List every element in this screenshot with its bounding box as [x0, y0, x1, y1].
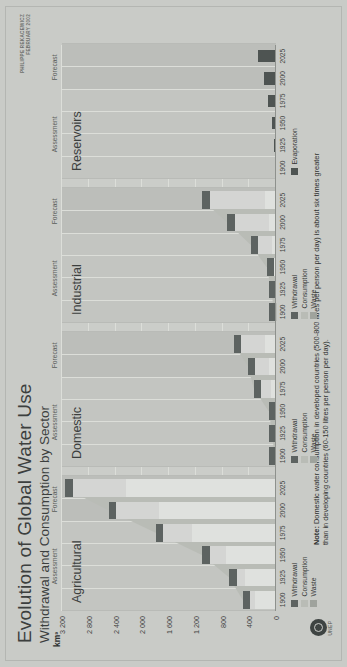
x-gridline — [62, 377, 276, 378]
legend-reservoirs: Evaporation — [290, 128, 300, 175]
unep-logo: UNEP — [310, 613, 333, 643]
y-axis-title: km³ — [52, 632, 62, 647]
x-gridline — [62, 300, 276, 301]
x-tick-label: 1975 — [279, 382, 286, 397]
x-gridline — [62, 255, 276, 256]
credit-text: PHILIPPE REKACEWICZFEBRUARY 2002 — [20, 14, 32, 73]
x-tick-label: 1950 — [279, 404, 286, 419]
sector-label-domestic: Domestic — [70, 407, 84, 459]
sector-label-industrial: Industrial — [70, 264, 84, 315]
x-tick-label: 2000 — [279, 215, 286, 230]
x-gridline — [62, 111, 276, 112]
y-tick-label: 0 — [272, 616, 281, 620]
legend-label: Consumption — [301, 556, 308, 596]
bar-withdrawal-stem — [116, 502, 276, 519]
legend-item: Withdrawal — [290, 556, 299, 607]
poster-rotator: Evolution of Global Water Use Withdrawal… — [0, 0, 347, 667]
x-tick-label: 1900 — [279, 161, 286, 176]
legend-label: Consumption — [301, 412, 308, 452]
bar-withdrawal-stem — [258, 236, 276, 253]
legend-swatch-evaporation — [291, 168, 298, 175]
phase-label-forecast: Forecast — [51, 343, 58, 369]
x-tick-label: 1925 — [279, 282, 286, 297]
legend-swatch-withdrawal — [291, 312, 298, 319]
legend-swatch-consumption — [301, 456, 308, 463]
bar-withdrawal-stem — [237, 569, 276, 586]
page-title: Evolution of Global Water Use — [14, 383, 36, 643]
y-tick-label: 400 — [245, 616, 254, 628]
bar-withdrawal — [65, 479, 72, 496]
y-tick-label: 1 600 — [165, 616, 174, 634]
bar-withdrawal-stem — [261, 380, 276, 397]
bar-withdrawal — [109, 502, 116, 519]
bar-withdrawal — [267, 258, 274, 275]
y-tick-label: 800 — [218, 616, 227, 628]
y-tick-label: 1 200 — [191, 616, 200, 634]
credit-line: PHILIPPE REKACEWICZ — [20, 14, 25, 73]
x-tick-label: 2000 — [279, 359, 286, 374]
bar-withdrawal — [202, 191, 209, 208]
legend-item: Consumption — [300, 412, 309, 463]
legend-label: Consumption — [301, 268, 308, 308]
bar-withdrawal — [229, 569, 236, 586]
page-subtitle: Withdrawal and Consumption by Sector — [37, 383, 52, 643]
x-gridline — [62, 277, 276, 278]
bar-withdrawal-stem — [241, 335, 276, 352]
phase-label-assessment: Assessment — [51, 116, 58, 152]
legend-item: Waste — [309, 268, 318, 319]
bar-withdrawal — [234, 335, 241, 352]
bar-withdrawal-stem — [255, 358, 276, 375]
credit-line: FEBRUARY 2002 — [26, 14, 31, 55]
y-tick-label: 2 400 — [111, 616, 120, 634]
x-tick-label: 1900 — [279, 593, 286, 608]
x-tick-label: 1925 — [279, 138, 286, 153]
bar-withdrawal-stem — [235, 214, 276, 231]
x-tick-label: 1975 — [279, 94, 286, 109]
y-tick-label: 3 200 — [58, 616, 67, 634]
phase-label-assessment: Assessment — [51, 548, 58, 584]
x-gridline — [62, 89, 276, 90]
note-text: Domestic water consumption in developed … — [312, 153, 331, 545]
y-tick-label: 2 000 — [138, 616, 147, 634]
x-tick-label: 2025 — [279, 193, 286, 208]
legend-label: Waste — [310, 433, 317, 452]
legend-swatch-waste — [310, 456, 317, 463]
legend-swatch-waste — [310, 600, 317, 607]
x-tick-label: 1950 — [279, 260, 286, 275]
bar-evaporation — [258, 50, 276, 62]
x-tick-label: 1950 — [279, 116, 286, 131]
legend-item: Waste — [309, 556, 318, 607]
x-tick-label: 2025 — [279, 49, 286, 64]
poster-canvas: Evolution of Global Water Use Withdrawal… — [0, 0, 347, 667]
bar-withdrawal — [156, 524, 163, 541]
legend-swatch-consumption — [301, 600, 308, 607]
x-tick-label: 1925 — [279, 426, 286, 441]
x-gridline — [62, 421, 276, 422]
x-gridline — [62, 156, 276, 157]
phase-label-forecast: Forecast — [51, 55, 58, 81]
legend-label: Withdrawal — [291, 275, 298, 309]
x-tick-label: 1950 — [279, 548, 286, 563]
legend-item: Withdrawal — [290, 412, 299, 463]
bar-withdrawal — [254, 380, 261, 397]
plot-area: 3 2002 8002 4002 0001 6001 2008004000190… — [62, 45, 276, 611]
legend-item: Consumption — [300, 268, 309, 319]
legend-item: Evaporation — [290, 128, 299, 175]
x-gridline — [62, 66, 276, 67]
legend-label: Withdrawal — [291, 419, 298, 453]
legend-swatch-waste — [310, 312, 317, 319]
x-tick-label: 1975 — [279, 526, 286, 541]
bar-withdrawal — [202, 546, 209, 563]
legend-item: Consumption — [300, 556, 309, 607]
legend-domestic: WithdrawalConsumptionWaste — [290, 412, 319, 463]
bar-withdrawal-stem — [210, 546, 276, 563]
x-gridline — [62, 444, 276, 445]
sector-label-reservoirs: Reservoirs — [70, 111, 84, 171]
legend-swatch-withdrawal — [291, 600, 298, 607]
x-gridline — [62, 133, 276, 134]
phase-label-assessment: Assessment — [51, 404, 58, 440]
sector-label-agricultural: Agricultural — [70, 540, 84, 603]
bar-withdrawal-stem — [250, 591, 276, 608]
legend-swatch-consumption — [301, 312, 308, 319]
legend-swatch-withdrawal — [291, 456, 298, 463]
